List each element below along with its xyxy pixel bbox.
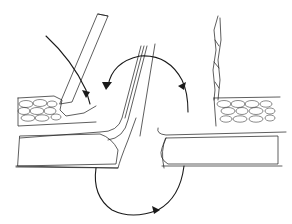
arrowhead-icon <box>102 82 112 90</box>
left-upper-layer <box>18 96 96 126</box>
left-lower-layer <box>16 134 118 168</box>
arrowhead-icon <box>82 90 90 98</box>
diagram-canvas <box>0 0 292 224</box>
right-upper-layer <box>158 97 286 135</box>
straight-curved-arrow-left <box>46 36 90 104</box>
tissue-flap-illustration <box>0 0 292 224</box>
right-lower-layer <box>161 136 282 168</box>
bottom-arc-arrow <box>95 166 184 215</box>
arrowhead-icon <box>152 206 160 214</box>
right-vertical-flap <box>213 16 221 100</box>
